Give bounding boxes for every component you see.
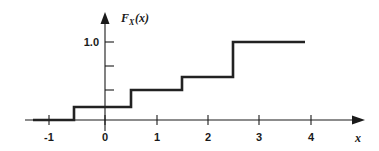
x-tick-label-3: 3 [256,131,262,143]
cdf-step-chart: -1 0 1 2 3 4 1.0 F X (x) x [0,0,379,151]
x-tick-label-0: 0 [102,131,108,143]
x-axis-arrow-icon [352,116,365,125]
y-tick-label-1p0: 1.0 [84,36,99,48]
x-tick-label-1: 1 [154,131,160,143]
y-axis-label-argument: (x) [135,11,149,25]
x-axis-tick-labels: -1 0 1 2 3 4 [44,131,315,143]
plot-canvas: -1 0 1 2 3 4 1.0 F X (x) x [0,0,379,151]
x-axis-label: x [354,131,361,145]
x-tick-label--1: -1 [44,131,54,143]
x-tick-label-2: 2 [205,131,211,143]
x-tick-label-4: 4 [308,131,315,143]
cdf-step-curve [33,42,305,120]
y-axis-label-symbol: F [120,11,129,25]
y-axis-label: F X (x) [120,11,149,27]
y-axis-ticks [105,42,114,90]
y-axis-label-subscript: X [128,18,135,27]
y-axis-arrow-icon [101,12,110,24]
